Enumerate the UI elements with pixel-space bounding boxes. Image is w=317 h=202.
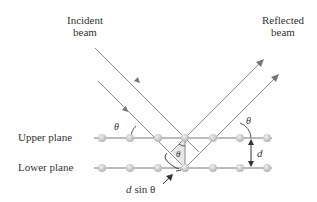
bragg-diffraction-diagram: Incident beam Reflected beam Upper plane… xyxy=(0,0,317,202)
lower-plane-label: Lower plane xyxy=(18,161,73,173)
d-arrowhead-up xyxy=(248,139,254,145)
atom xyxy=(98,164,106,172)
reflected-ray-upper xyxy=(185,61,262,138)
atom xyxy=(126,134,134,142)
theta-label-incident: θ xyxy=(114,121,119,132)
incident-beam-label-2: beam xyxy=(73,26,97,38)
dsin-label: dsin θ xyxy=(126,183,155,195)
atom xyxy=(236,164,244,172)
reflected-beam-label-1: Reflected xyxy=(262,14,305,26)
incident-ray-upper xyxy=(95,48,185,138)
atom xyxy=(209,164,217,172)
atom xyxy=(209,134,217,142)
upper-plane-label: Upper plane xyxy=(18,131,72,143)
atom xyxy=(126,164,134,172)
atom xyxy=(236,134,244,142)
incident-arrowhead-2 xyxy=(122,106,128,112)
reflected-beam-label-2: beam xyxy=(271,26,295,38)
atom xyxy=(181,134,189,142)
incident-beam-label-1: Incident xyxy=(67,14,103,26)
d-arrowhead-down xyxy=(248,161,254,167)
incident-beam xyxy=(97,55,213,168)
theta-label-reflected: θ xyxy=(246,115,251,126)
atom xyxy=(154,164,162,172)
atom xyxy=(181,164,189,172)
reflected-ray-lower xyxy=(185,76,277,168)
atom xyxy=(263,134,271,142)
d-label: d xyxy=(257,147,263,159)
atom xyxy=(154,134,162,142)
atom xyxy=(263,164,271,172)
theta-label-triangle: θ xyxy=(176,149,181,159)
atom xyxy=(98,134,106,142)
